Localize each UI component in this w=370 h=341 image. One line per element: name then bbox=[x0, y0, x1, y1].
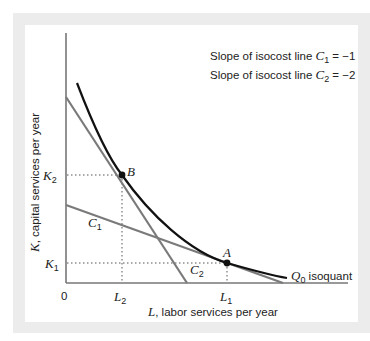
l1-tick-label: L1 bbox=[219, 289, 232, 306]
point-b bbox=[119, 172, 126, 179]
isocost-line-c2 bbox=[66, 97, 187, 283]
y-axis-title: K, capital services per year bbox=[27, 113, 42, 253]
k2-tick-label: K2 bbox=[42, 168, 57, 185]
k1-tick-label: K1 bbox=[44, 256, 59, 273]
l2-tick-label: L2 bbox=[113, 289, 126, 306]
origin-label: 0 bbox=[61, 290, 67, 302]
legend-c1-slope: Slope of isocost line C1 = −1 bbox=[210, 48, 355, 65]
point-a bbox=[224, 260, 231, 267]
isocost-line-c1 bbox=[66, 205, 283, 283]
point-a-label: A bbox=[222, 245, 231, 260]
isoquant-diagram: B A C1 C2 Q0 isoquant K2 K1 0 L2 L1 L, l… bbox=[0, 0, 370, 341]
isoquant-curve bbox=[77, 83, 287, 278]
point-b-label: B bbox=[127, 164, 135, 179]
c2-label: C2 bbox=[190, 262, 204, 279]
legend-c2-slope: Slope of isocost line C2 = −2 bbox=[210, 67, 355, 84]
x-axis-title: L, labor services per year bbox=[147, 304, 278, 319]
